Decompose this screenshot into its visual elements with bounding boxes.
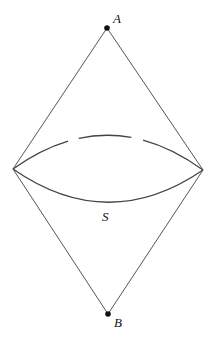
edge-A-right <box>107 28 203 170</box>
edge-A-left <box>13 28 107 169</box>
lower-arc <box>13 169 203 202</box>
edge-B-left <box>13 169 108 314</box>
edge-B-right <box>108 170 203 314</box>
point-A-dot <box>104 25 110 31</box>
label-A: A <box>112 11 121 26</box>
upper-arc <box>13 135 203 170</box>
causal-diamond-diagram: A S B <box>0 0 214 346</box>
label-S: S <box>102 209 109 224</box>
label-B: B <box>114 315 122 330</box>
point-B-dot <box>105 311 111 317</box>
